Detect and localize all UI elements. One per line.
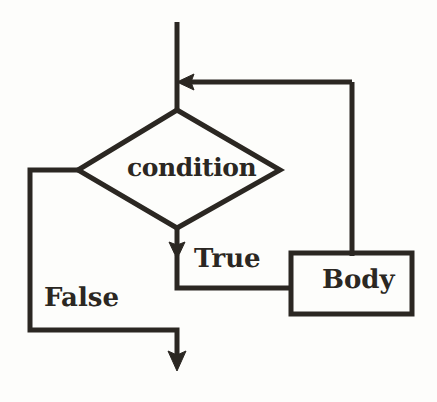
decision-label: condition bbox=[127, 155, 256, 180]
flowchart-svg bbox=[0, 0, 437, 402]
false-branch-line bbox=[30, 170, 177, 358]
body-node-label: Body bbox=[322, 267, 395, 293]
flowchart-canvas: condition True Body False bbox=[0, 0, 437, 402]
false-edge-label: False bbox=[44, 285, 119, 311]
true-branch-arrowhead-icon bbox=[169, 242, 185, 259]
true-edge-label: True bbox=[194, 246, 261, 272]
loopback-arrowhead-icon bbox=[177, 74, 194, 90]
